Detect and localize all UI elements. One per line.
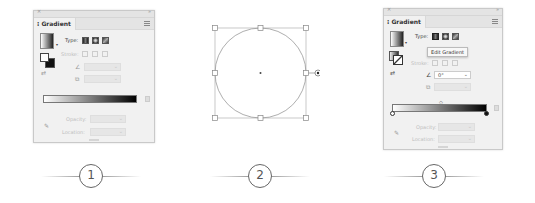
opacity-label: Opacity: [416, 124, 437, 130]
collapse-icon[interactable]: » [496, 6, 499, 12]
stroke-label: Stroke: [411, 60, 429, 66]
rotate-handle-icon[interactable] [314, 69, 322, 77]
step-marker-3: 3 [384, 164, 484, 188]
step-marker-1: 1 [41, 164, 141, 188]
radial-gradient-icon[interactable] [92, 37, 99, 44]
aspect-ratio-icon: ⧉ [426, 83, 430, 91]
fill-swatch[interactable] [40, 53, 49, 62]
resize-grip[interactable] [438, 146, 448, 148]
tab-label: Gradient [391, 18, 421, 25]
angle-icon: ∠ [75, 63, 80, 70]
eyedropper-icon[interactable]: ✎ [44, 122, 49, 129]
stroke-along-icon[interactable] [92, 51, 98, 57]
swap-fill-stroke-icon[interactable]: ⇄ [41, 69, 46, 76]
step-number: 3 [422, 164, 446, 188]
delete-stop-icon[interactable] [494, 105, 499, 111]
step-number: 1 [79, 164, 103, 188]
freeform-gradient-icon[interactable] [452, 33, 459, 40]
opacity-field[interactable]: ⌄ [90, 115, 126, 123]
angle-field[interactable]: ⌄ [84, 63, 121, 71]
gradient-panel-step3: ✕ » ⁝ Gradient ▾ ⇄ Type: Edit Gradient S… [383, 8, 503, 150]
panel-menu-icon[interactable] [492, 19, 498, 24]
gradient-swatch[interactable] [390, 31, 404, 47]
opacity-field[interactable]: ⌄ [438, 123, 475, 131]
type-label: Type: [415, 33, 428, 39]
gradient-slider[interactable] [43, 95, 137, 103]
stroke-across-icon[interactable] [452, 60, 458, 66]
gradient-panel-step1: ✕ » ⁝ Gradient ▾ ⇄ Type: Stroke: ∠ ⌄ ⧉ ⌄… [33, 10, 155, 143]
tab-gradient[interactable]: ⁝ Gradient [34, 18, 76, 30]
angle-icon: ∠ [426, 71, 431, 78]
close-icon[interactable]: ✕ [37, 8, 41, 14]
location-label: Location: [62, 129, 85, 135]
stroke-within-icon[interactable] [432, 60, 438, 66]
fill-stroke-none-swatch[interactable] [389, 51, 403, 65]
swatch-dropdown-icon[interactable]: ▾ [56, 42, 58, 47]
radial-gradient-icon[interactable] [442, 33, 449, 40]
ellipse-selection [205, 22, 320, 122]
swatch-dropdown-icon[interactable]: ▾ [405, 40, 407, 45]
aspect-ratio-field[interactable]: ⌄ [84, 75, 121, 83]
panel-tab-row: ⁝ Gradient [384, 16, 502, 28]
delete-stop-icon[interactable] [145, 96, 150, 102]
eyedropper-icon[interactable]: ✎ [394, 129, 399, 136]
stroke-within-icon[interactable] [82, 51, 88, 57]
collapse-icon[interactable]: » [148, 8, 151, 14]
linear-gradient-icon[interactable] [432, 33, 439, 40]
location-label: Location: [412, 136, 435, 142]
tab-gradient[interactable]: ⁝ Gradient [384, 16, 426, 28]
edit-gradient-tooltip: Edit Gradient [427, 47, 468, 57]
panel-titlebar[interactable]: ✕ » [384, 9, 502, 16]
gradient-slider[interactable] [392, 104, 487, 112]
angle-value: 0° [438, 72, 444, 78]
swap-fill-stroke-icon[interactable]: ⇄ [390, 69, 395, 76]
stroke-along-icon[interactable] [442, 60, 448, 66]
type-label: Type: [65, 37, 78, 43]
gradient-stop-black[interactable] [484, 111, 489, 116]
aspect-ratio-field[interactable]: ⌄ [434, 83, 471, 91]
gradient-stop-white[interactable] [390, 111, 395, 116]
angle-field[interactable]: 0° ⌄ [434, 71, 471, 79]
stroke-across-icon[interactable] [102, 51, 108, 57]
location-field[interactable]: ⌄ [438, 135, 475, 143]
close-icon[interactable]: ✕ [387, 6, 391, 12]
opacity-label: Opacity: [66, 116, 87, 122]
stroke-label: Stroke: [61, 51, 79, 57]
linear-gradient-icon[interactable] [82, 37, 89, 44]
panel-titlebar[interactable]: ✕ » [34, 11, 154, 18]
step-number: 2 [248, 164, 272, 188]
location-field[interactable]: ⌄ [90, 128, 126, 136]
step-marker-2: 2 [210, 164, 310, 188]
resize-grip[interactable] [89, 139, 99, 141]
freeform-gradient-icon[interactable] [102, 37, 109, 44]
panel-tab-row: ⁝ Gradient [34, 18, 154, 30]
panel-menu-icon[interactable] [144, 21, 150, 26]
gradient-swatch[interactable] [40, 33, 54, 49]
aspect-ratio-icon: ⧉ [75, 75, 79, 83]
tab-label: Gradient [41, 20, 71, 27]
